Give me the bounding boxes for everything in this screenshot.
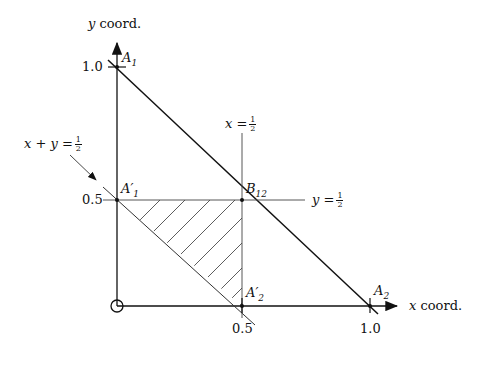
y-tick-1: 1.0 xyxy=(82,59,103,74)
x-tick-1: 1.0 xyxy=(360,321,381,336)
point-A1: A1 xyxy=(122,50,137,68)
label-x-plus-y-half: x + y =12 xyxy=(24,136,82,153)
point-A2-prime: A′2 xyxy=(246,285,264,303)
annotation-arrow xyxy=(70,155,96,180)
hatched-region xyxy=(110,190,255,320)
point-A1-prime: A′1 xyxy=(121,181,139,199)
point-B12: B12 xyxy=(246,181,267,199)
line-x-plus-y-1 xyxy=(108,60,378,314)
point-A2: A2 xyxy=(374,283,389,301)
label-x-half: x =12 xyxy=(225,116,256,133)
line-x-plus-y-half xyxy=(103,187,255,325)
y-tick-05: 0.5 xyxy=(82,192,103,207)
y-axis-label: y coord. xyxy=(88,16,141,31)
label-y-half: y =12 xyxy=(312,192,343,209)
x-axis-label: x coord. xyxy=(409,298,462,313)
x-tick-05: 0.5 xyxy=(232,321,253,336)
